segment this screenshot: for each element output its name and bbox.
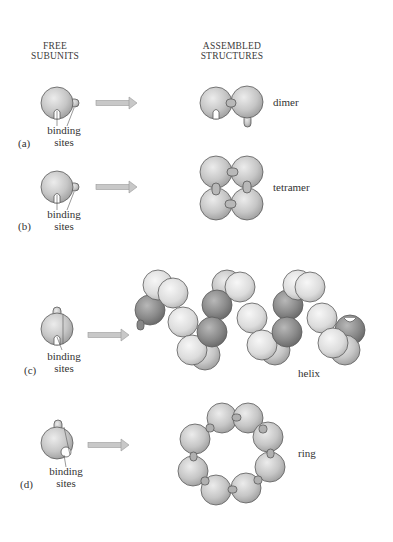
binding-label: binding xyxy=(44,350,84,362)
panel-d-ring xyxy=(178,403,285,505)
panel-a-arrow-icon xyxy=(96,97,137,109)
panel-b-tetramer xyxy=(200,156,263,220)
panel-c-free-subunit xyxy=(41,307,73,350)
panel-c-letter: (c) xyxy=(24,364,36,376)
panel-b-structure-label: tetramer xyxy=(273,181,310,193)
binding-label: binding xyxy=(44,124,84,136)
panel-d-free-subunit xyxy=(41,420,73,467)
binding-label: binding xyxy=(44,208,84,220)
panel-a-binding-sites-label: binding sites xyxy=(44,124,84,148)
panel-c-arrow-icon xyxy=(88,329,129,341)
panel-a-free-subunit xyxy=(41,87,79,126)
panel-a-structure-label: dimer xyxy=(273,96,299,108)
diagram-canvas xyxy=(0,0,393,542)
panel-a-dimer xyxy=(200,86,263,127)
panel-b-arrow-icon xyxy=(96,181,137,193)
panel-a-letter: (a) xyxy=(18,137,30,149)
panel-c-binding-sites-label: binding sites xyxy=(44,350,84,374)
panel-c-structure-label: helix xyxy=(298,367,320,379)
panel-c-helix xyxy=(135,270,365,370)
sites-label: sites xyxy=(44,362,84,374)
panel-d-arrow-icon xyxy=(88,439,129,451)
panel-b-letter: (b) xyxy=(18,220,31,232)
panel-d-structure-label: ring xyxy=(298,447,316,459)
panel-b-binding-sites-label: binding sites xyxy=(44,208,84,232)
panel-d-letter: (d) xyxy=(20,478,33,490)
sites-label: sites xyxy=(44,477,88,489)
panel-d-binding-sites-label: binding sites xyxy=(44,465,88,489)
binding-label: binding xyxy=(44,465,88,477)
sites-label: sites xyxy=(44,136,84,148)
sites-label: sites xyxy=(44,220,84,232)
panel-b-free-subunit xyxy=(41,171,79,210)
